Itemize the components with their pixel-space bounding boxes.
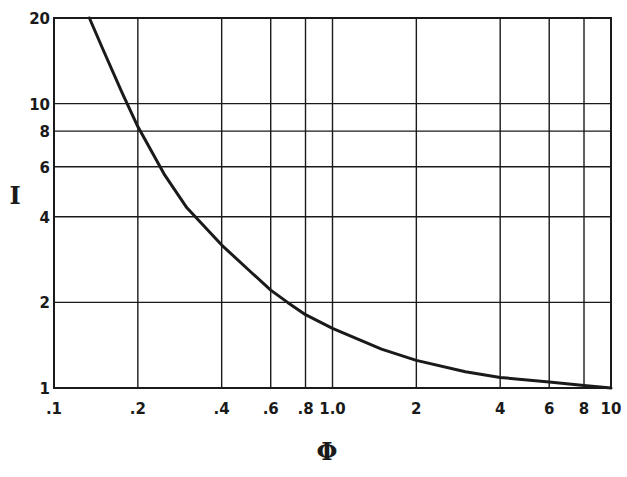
x-tick-label: .8 xyxy=(297,400,313,418)
grid-lines xyxy=(54,18,611,388)
x-tick-label: .2 xyxy=(130,400,146,418)
x-tick-label: .1 xyxy=(46,400,62,418)
y-tick-label: 10 xyxy=(29,96,50,114)
x-tick-label: 1.0 xyxy=(319,400,346,418)
x-axis-tick-labels: .1.2.4.6.81.0246810 xyxy=(46,400,622,418)
x-tick-label: .6 xyxy=(263,400,279,418)
x-tick-label: 10 xyxy=(601,400,622,418)
y-tick-label: 1 xyxy=(40,380,50,398)
y-tick-label: 4 xyxy=(40,209,50,227)
y-tick-label: 6 xyxy=(40,159,50,177)
x-tick-label: .4 xyxy=(214,400,230,418)
x-tick-label: 4 xyxy=(495,400,505,418)
y-tick-label: 8 xyxy=(40,123,50,141)
x-axis-label: Φ xyxy=(317,437,338,466)
chart: .1.2.4.6.81.0246810 124681020 Φ I xyxy=(0,0,627,477)
x-tick-label: 2 xyxy=(411,400,421,418)
y-axis-label: I xyxy=(9,181,20,210)
y-axis-tick-labels: 124681020 xyxy=(29,10,50,398)
x-tick-label: 8 xyxy=(579,400,589,418)
y-tick-label: 2 xyxy=(40,294,50,312)
data-curve xyxy=(89,18,611,388)
y-tick-label: 20 xyxy=(29,10,50,28)
x-tick-label: 6 xyxy=(544,400,554,418)
